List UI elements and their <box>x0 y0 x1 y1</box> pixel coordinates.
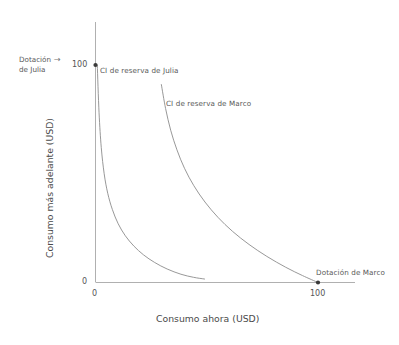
chart-figure: Consumo más adelante (USD) Consumo ahora… <box>0 0 399 345</box>
x-axis-title: Consumo ahora (USD) <box>156 313 259 324</box>
x-tick-label-0: 0 <box>92 289 97 298</box>
y-axis-title: Consumo más adelante (USD) <box>44 118 55 258</box>
curve-ci-marco <box>161 85 318 283</box>
annotation-dotacion-marco: Dotación de Marco <box>316 268 385 278</box>
y-tick-label-0: 0 <box>82 277 87 286</box>
marker-dotacion-julia <box>93 63 97 67</box>
annotation-ci-marco: CI de reserva de Marco <box>166 99 251 109</box>
x-tick-label-100: 100 <box>310 289 325 298</box>
marker-dotacion-marco <box>316 280 320 284</box>
annotation-ci-julia: CI de reserva de Julia <box>100 66 179 76</box>
annotation-dotacion-julia-line2: de Julia <box>19 65 51 75</box>
annotation-dotacion-julia: Dotación de Julia <box>19 55 51 75</box>
y-tick-label-100: 100 <box>72 60 87 69</box>
chart-plot-area <box>0 0 399 345</box>
annotation-dotacion-julia-line1: Dotación <box>19 55 51 65</box>
annotation-arrow-icon: → <box>54 55 61 64</box>
curve-ci-julia <box>97 65 204 279</box>
